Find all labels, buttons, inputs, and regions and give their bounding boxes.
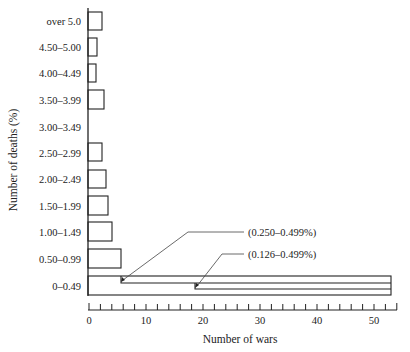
bar-over-5 [88,12,102,30]
annotation-0.250-0.499: (0.250–0.499%) [248,227,317,239]
annotation-0.126-0.499: (0.126–0.499%) [248,249,317,261]
x-tick-40: 40 [312,315,323,326]
sub-bar-0.126-0.499 [195,283,391,289]
annotation-leaders [123,232,244,286]
bar-0.50-0.99 [88,249,121,268]
y-label-4.50-5.00: 4.50–5.00 [39,42,81,53]
y-label-over-5: over 5.0 [47,16,81,27]
chart: 0 10 20 30 40 50 over 5.0 4.50–5.00 4.00… [0,0,410,352]
x-tick-10: 10 [141,315,152,326]
bars [88,12,391,295]
bar-3.50-3.99 [88,90,104,109]
sub-bar-0.250-0.499 [121,276,391,283]
y-axis-title: Number of deaths (%) [7,109,20,212]
bar-0-0.49 [88,276,391,295]
y-label-3.50-3.99: 3.50–3.99 [39,95,81,106]
x-axis [88,303,397,310]
y-label-0-0.49: 0–0.49 [52,281,81,292]
x-tick-20: 20 [198,315,209,326]
bar-4.00-4.49 [88,64,96,82]
y-label-1.00-1.49: 1.00–1.49 [39,227,81,238]
bar-1.50-1.99 [88,196,108,215]
y-label-4.00-4.49: 4.00–4.49 [39,68,81,79]
y-label-3.00-3.49: 3.00–3.49 [39,122,81,133]
x-tick-50: 50 [369,315,380,326]
bar-1.00-1.49 [88,222,112,241]
y-label-1.50-1.99: 1.50–1.99 [39,201,81,212]
bar-4.50-5.00 [88,38,97,56]
y-label-2.50-2.99: 2.50–2.99 [39,148,81,159]
arrowhead-1 [121,277,125,282]
x-tick-0: 0 [86,315,91,326]
bar-2.00-2.49 [88,170,106,188]
x-tick-labels: 0 10 20 30 40 50 [86,315,379,326]
y-label-2.00-2.49: 2.00–2.49 [39,174,81,185]
leader-line-1 [123,232,244,280]
y-category-labels: over 5.0 4.50–5.00 4.00–4.49 3.50–3.99 3… [39,16,81,292]
y-label-0.50-0.99: 0.50–0.99 [39,254,81,265]
leader-line-2 [197,254,244,286]
x-axis-title: Number of wars [203,333,278,345]
bar-2.50-2.99 [88,143,102,161]
x-tick-30: 30 [255,315,266,326]
